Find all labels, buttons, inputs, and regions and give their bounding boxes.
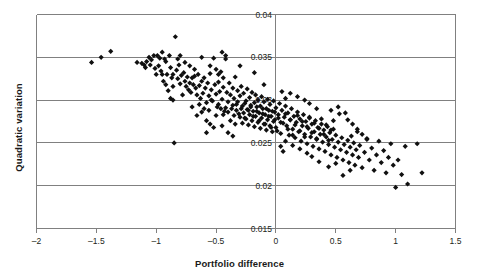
data-point-marker: [336, 104, 341, 109]
data-point-marker: [221, 75, 226, 80]
data-point-marker: [204, 100, 209, 105]
data-point-marker: [331, 118, 336, 123]
data-point-marker: [388, 141, 393, 146]
data-point-marker: [309, 154, 314, 159]
data-point-marker: [291, 114, 296, 119]
data-point-marker: [182, 60, 187, 65]
data-point-marker: [350, 121, 355, 126]
data-point-marker: [204, 130, 209, 135]
data-point-marker: [289, 106, 294, 111]
data-point-marker: [175, 76, 180, 81]
data-point-marker: [314, 136, 319, 141]
data-point-marker: [249, 118, 254, 123]
data-point-marker: [270, 129, 275, 134]
data-point-marker: [194, 113, 199, 118]
data-point-marker: [240, 121, 245, 126]
data-point-marker: [343, 110, 348, 115]
data-point-marker: [354, 147, 359, 152]
data-point-marker: [182, 79, 187, 84]
data-point-marker: [247, 95, 252, 100]
data-point-marker: [301, 112, 306, 117]
y-tick-label: 0.04: [255, 10, 272, 20]
data-point-marker: [295, 94, 300, 99]
data-point-marker: [278, 144, 283, 149]
data-point-marker: [333, 133, 338, 138]
data-point-marker: [351, 140, 356, 145]
data-point-marker: [391, 163, 396, 168]
data-point-marker: [187, 63, 192, 68]
data-point-marker: [211, 56, 216, 61]
x-tick-label: –2: [32, 236, 42, 246]
data-point-marker: [332, 145, 337, 150]
data-point-marker: [172, 140, 177, 145]
x-tick-label: 0.5: [330, 236, 342, 246]
data-point-marker: [246, 122, 251, 127]
data-point-marker: [206, 108, 211, 113]
data-point-marker: [205, 80, 210, 85]
data-point-marker: [190, 104, 195, 109]
data-point-marker: [334, 155, 339, 160]
data-point-marker: [166, 88, 171, 93]
data-point-marker: [219, 123, 224, 128]
y-tick-label: 0.03: [255, 95, 272, 105]
x-tick-label: –0.5: [208, 236, 225, 246]
data-point-marker: [207, 63, 212, 68]
data-point-marker: [330, 137, 335, 142]
data-point-marker: [203, 86, 208, 91]
data-point-marker: [197, 102, 202, 107]
data-point-marker: [134, 60, 139, 65]
data-point-marker: [180, 92, 185, 97]
data-point-marker: [374, 152, 379, 157]
x-tick-label: 1.5: [450, 236, 462, 246]
data-point-marker: [258, 126, 263, 131]
data-point-marker: [304, 151, 309, 156]
data-point-marker: [235, 88, 240, 93]
data-point-marker: [339, 135, 344, 140]
data-point-marker: [360, 132, 365, 137]
data-point-marker: [273, 105, 278, 110]
data-point-marker: [307, 115, 312, 120]
data-point-marker: [221, 85, 226, 90]
data-point-marker: [233, 121, 238, 126]
data-point-marker: [207, 71, 212, 76]
data-point-marker: [360, 165, 365, 170]
data-point-marker: [192, 67, 197, 72]
data-point-marker: [251, 109, 256, 114]
x-tick-label: –1.5: [88, 236, 105, 246]
data-point-marker: [371, 168, 376, 173]
data-point-marker: [204, 118, 209, 123]
data-point-marker: [379, 160, 384, 165]
data-point-marker: [264, 127, 269, 132]
data-point-marker: [403, 144, 408, 149]
data-point-marker: [348, 168, 353, 173]
data-point-marker: [200, 91, 205, 96]
data-point-marker: [241, 110, 246, 115]
data-point-marker: [302, 98, 307, 103]
data-point-marker: [344, 150, 349, 155]
data-point-marker: [304, 141, 309, 146]
plot-area: 0.0150.020.0250.030.0350.04 –2–1.5–1–0.5…: [0, 0, 479, 277]
data-point-marker: [209, 87, 214, 92]
data-point-marker: [108, 49, 113, 54]
x-tick-marks: [37, 229, 456, 233]
data-point-marker: [281, 149, 286, 154]
data-point-marker: [336, 139, 341, 144]
data-point-marker: [245, 86, 250, 91]
data-point-marker: [199, 55, 204, 60]
data-point-marker: [170, 84, 175, 89]
y-tick-label: 0.025: [251, 138, 273, 148]
data-point-marker: [207, 121, 212, 126]
data-point-marker: [357, 143, 362, 148]
x-tick-label: –1: [151, 236, 161, 246]
data-point-marker: [364, 137, 369, 142]
data-point-marker: [319, 121, 324, 126]
y-tick-label: 0.015: [251, 224, 273, 234]
scatter-chart: 0.0150.020.0250.030.0350.04 –2–1.5–1–0.5…: [0, 0, 479, 277]
data-point-marker: [261, 82, 266, 87]
data-point-marker: [328, 108, 333, 113]
data-point-marker: [237, 63, 242, 68]
data-point-marker: [154, 72, 159, 77]
data-point-marker: [148, 62, 153, 67]
data-point-marker: [254, 104, 259, 109]
data-point-marker: [352, 163, 357, 168]
